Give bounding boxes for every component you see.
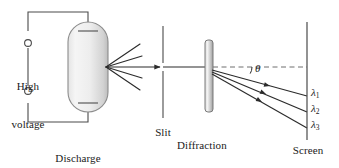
emission-ray-3 bbox=[106, 67, 142, 78]
theta-symbol-label: θ bbox=[255, 62, 260, 74]
diffraction-grating-label-line1: Diffraction bbox=[177, 139, 257, 152]
emission-ray-4 bbox=[106, 67, 140, 90]
lambda1-subscript: 1 bbox=[316, 91, 320, 100]
emission-ray-2 bbox=[106, 56, 142, 67]
discharge-tube-label: Discharge tube to excite gases bbox=[33, 127, 123, 168]
discharge-tube-label-line1: Discharge bbox=[33, 152, 123, 165]
diffracted-ray-arrowheads bbox=[256, 82, 271, 104]
diffraction-grating-label: Diffraction grating bbox=[177, 114, 257, 168]
theta-angle-arc bbox=[250, 67, 252, 74]
screen-label: Screen bbox=[284, 144, 332, 157]
discharge-tube-body bbox=[68, 22, 108, 112]
lambda3-label: λ3 bbox=[311, 118, 320, 130]
emission-ray-1 bbox=[106, 44, 140, 67]
lambda2-subscript: 2 bbox=[316, 107, 320, 116]
high-voltage-label-line1: High bbox=[2, 80, 54, 93]
terminal-top bbox=[25, 40, 32, 47]
lambda1-label: λ1 bbox=[311, 86, 320, 98]
lambda3-subscript: 3 bbox=[316, 123, 320, 132]
diffraction-grating bbox=[205, 40, 213, 112]
lambda2-label: λ2 bbox=[311, 102, 320, 114]
slit-label: Slit bbox=[145, 126, 181, 139]
physics-diagram-discharge-tube-grating: High voltage Discharge tube to excite ga… bbox=[0, 0, 339, 168]
